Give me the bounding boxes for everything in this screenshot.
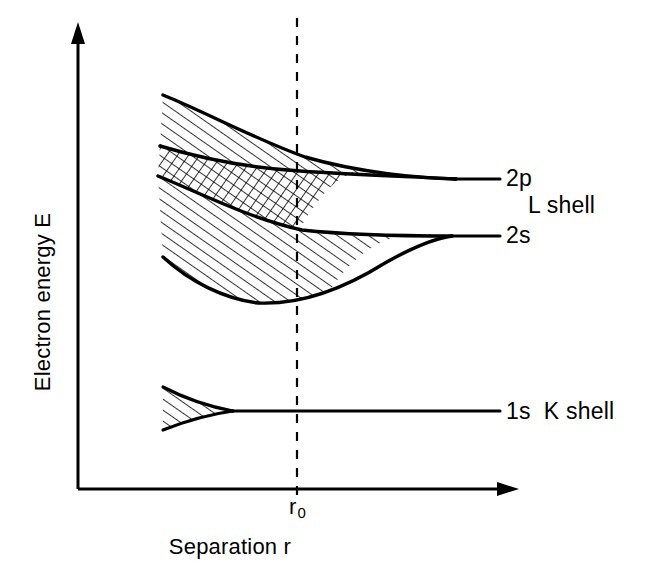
band-label-2p: 2p	[506, 165, 532, 192]
x-axis-label: Separation r	[0, 534, 460, 560]
y-axis-arrowhead	[71, 22, 85, 44]
energy-band-diagram: Electron energy E Separation r r0 2p 2s …	[0, 0, 659, 582]
band-1s-region	[150, 380, 480, 436]
band-label-1s-k-shell: 1s K shell	[506, 398, 614, 425]
x-axis-tick-label-r0: r0	[252, 494, 342, 520]
band-label-2s: 2s	[506, 222, 531, 249]
y-axis-label: Electron energy E	[26, 152, 60, 452]
x-axis-arrowhead	[497, 482, 519, 496]
shell-label-l: L shell	[528, 192, 595, 219]
